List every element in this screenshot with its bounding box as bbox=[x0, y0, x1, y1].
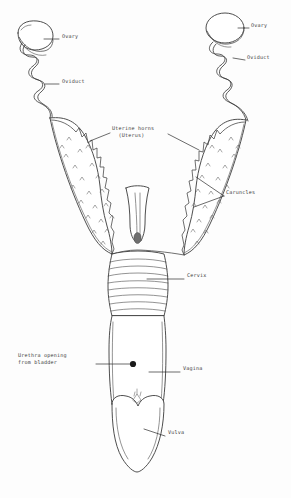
label-oviduct-right: Oviduct bbox=[247, 54, 270, 61]
cervix-structure bbox=[108, 251, 168, 316]
ovary-right-structure bbox=[206, 13, 244, 47]
leader-uterine-horn-left bbox=[90, 133, 110, 141]
urethral-opening-marker bbox=[130, 361, 136, 367]
label-ovary-left: Ovary bbox=[62, 33, 78, 40]
label-oviduct-left: Oviduct bbox=[62, 78, 85, 85]
label-urethra-opening: Urethra opening from bladder bbox=[18, 352, 67, 365]
uterine-body bbox=[112, 186, 184, 255]
uterine-horn-right bbox=[182, 119, 246, 255]
oviduct-right-structure bbox=[209, 42, 248, 121]
label-ovary-right: Ovary bbox=[251, 22, 267, 29]
label-vagina: Vagina bbox=[183, 365, 202, 372]
label-cervix: Cervix bbox=[187, 272, 206, 279]
label-vulva: Vulva bbox=[168, 429, 184, 436]
label-caruncles: Caruncles bbox=[226, 189, 255, 196]
anatomy-diagram: Ovary Oviduct Ovary Oviduct Uterine horn… bbox=[0, 0, 291, 498]
uterine-horn-left bbox=[50, 118, 114, 254]
diagram-canvas bbox=[0, 0, 291, 498]
leader-uterine-horn-right bbox=[168, 134, 199, 150]
leader-oviduct-right bbox=[233, 58, 245, 60]
label-uterine-horns: Uterine horns (Uterus) bbox=[112, 125, 154, 138]
